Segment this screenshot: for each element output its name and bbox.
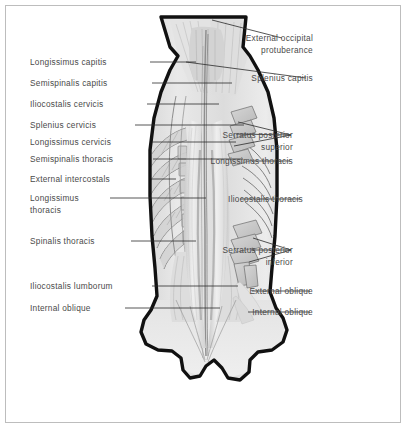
label-splenius-capitis: Splenius capitis: [251, 73, 313, 85]
anatomical-plate: Longissimus capitisSemispinalis capitisI…: [0, 0, 407, 429]
label-text: External oblique: [249, 286, 313, 296]
label-longissimus-thoracis-r: Longissimus thoracis: [211, 156, 293, 168]
label-iliocostalis-lumborum: Iliocostalis lumborum: [30, 281, 113, 293]
label-longissimus-capitis: Longissimus capitis: [30, 57, 107, 69]
label-text: Spinalis thoracis: [30, 236, 95, 246]
label-longissimus-thoracis-l: Longissimusthoracis: [30, 193, 79, 216]
label-text-line2: protuberance: [246, 45, 313, 57]
label-text: Serratus posterior: [223, 245, 293, 255]
label-external-intercostals: External intercostals: [30, 174, 110, 186]
label-text: Internal oblique: [30, 303, 91, 313]
label-text: Splenius cervicis: [30, 120, 96, 130]
label-text: Iliocostalis cervicis: [30, 99, 104, 109]
label-text: Iliocostalis thoracis: [228, 194, 303, 204]
label-semispinalis-capitis: Semispinalis capitis: [30, 78, 107, 90]
label-text: Iliocostalis lumborum: [30, 281, 113, 291]
label-text: Internal oblique: [252, 307, 313, 317]
label-text: External intercostals: [30, 174, 110, 184]
label-spinalis-thoracis: Spinalis thoracis: [30, 236, 95, 248]
label-serratus-posterior-superior: Serratus posteriorsuperior: [223, 130, 293, 153]
label-text-line2: inferior: [223, 257, 293, 269]
label-internal-oblique-left: Internal oblique: [30, 303, 91, 315]
label-longissimus-cervicis: Longissimus cervicis: [30, 137, 111, 149]
label-external-oblique: External oblique: [249, 286, 313, 298]
label-internal-oblique-right: Internal oblique: [252, 307, 313, 319]
label-iliocostalis-cervicis: Iliocostalis cervicis: [30, 99, 104, 111]
label-text: Longissimus cervicis: [30, 137, 111, 147]
label-text-line2: superior: [223, 142, 293, 154]
label-text: Semispinalis capitis: [30, 78, 107, 88]
label-text: Semispinalis thoracis: [30, 154, 113, 164]
label-text: External occipital: [246, 33, 313, 43]
label-semispinalis-thoracis: Semispinalis thoracis: [30, 154, 113, 166]
label-text: Longissimus capitis: [30, 57, 107, 67]
label-external-occipital-protuberance: External occipitalprotuberance: [246, 33, 313, 56]
label-text: Longissimus: [30, 193, 79, 203]
label-serratus-posterior-inferior: Serratus posteriorinferior: [223, 245, 293, 268]
label-iliocostalis-thoracis: Iliocostalis thoracis: [228, 194, 303, 206]
label-text: Longissimus thoracis: [211, 156, 293, 166]
label-text-line2: thoracis: [30, 205, 79, 217]
label-text: Serratus posterior: [223, 130, 293, 140]
label-splenius-cervicis: Splenius cervicis: [30, 120, 96, 132]
label-text: Splenius capitis: [251, 73, 313, 83]
